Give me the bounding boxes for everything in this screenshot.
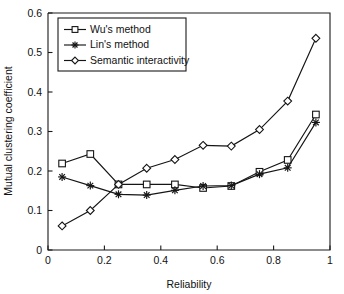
chart-figure: 00.10.20.30.40.50.600.20.40.60.81 Wu's m…: [0, 0, 344, 294]
series-line: [62, 122, 316, 195]
y-tick-label: 0.1: [27, 204, 42, 216]
y-tick-label: 0: [36, 244, 42, 256]
marker-diamond: [227, 142, 235, 150]
x-tick-label: 0.4: [153, 254, 168, 266]
marker-diamond: [312, 34, 320, 42]
y-tick-label: 0.3: [27, 125, 42, 137]
legend-label: Semantic interactivity: [90, 54, 190, 66]
x-tick-label: 0.2: [97, 254, 112, 266]
x-tick-label: 1: [327, 254, 333, 266]
marker-star: [58, 173, 66, 181]
x-tick-label: 0.6: [210, 254, 225, 266]
marker-star: [256, 170, 264, 178]
marker-square: [59, 160, 66, 167]
marker-star: [199, 182, 207, 190]
marker-star: [143, 191, 151, 199]
marker-square: [72, 27, 78, 33]
y-tick-label: 0.2: [27, 165, 42, 177]
line-chart: 00.10.20.30.40.50.600.20.40.60.81 Wu's m…: [0, 0, 344, 294]
x-tick-label: 0.8: [266, 254, 281, 266]
marker-diamond: [171, 156, 179, 164]
marker-star: [312, 118, 320, 126]
marker-star: [71, 41, 78, 48]
marker-star: [171, 186, 179, 194]
marker-star: [284, 164, 292, 172]
series-wu-s-method: [59, 111, 319, 191]
marker-diamond: [58, 222, 66, 230]
marker-diamond: [143, 164, 151, 172]
series-line: [62, 115, 316, 188]
x-tick-label: 0: [45, 254, 51, 266]
chart-legend: Wu's methodLin's methodSemantic interact…: [58, 18, 190, 71]
marker-square: [87, 151, 94, 158]
y-axis-title: Mutual clustering coefficient: [2, 66, 14, 195]
marker-square: [143, 181, 150, 188]
legend-label: Wu's method: [90, 23, 151, 35]
y-tick-label: 0.4: [27, 86, 42, 98]
series-lin-s-method: [58, 118, 320, 199]
y-tick-label: 0.6: [27, 7, 42, 19]
marker-diamond: [199, 141, 207, 149]
marker-square: [284, 157, 291, 164]
marker-star: [227, 182, 235, 190]
y-tick-label: 0.5: [27, 46, 42, 58]
legend-label: Lin's method: [90, 38, 149, 50]
x-axis-title: Reliability: [167, 278, 213, 290]
marker-square: [313, 111, 320, 118]
marker-star: [86, 182, 94, 190]
marker-star: [115, 190, 123, 198]
